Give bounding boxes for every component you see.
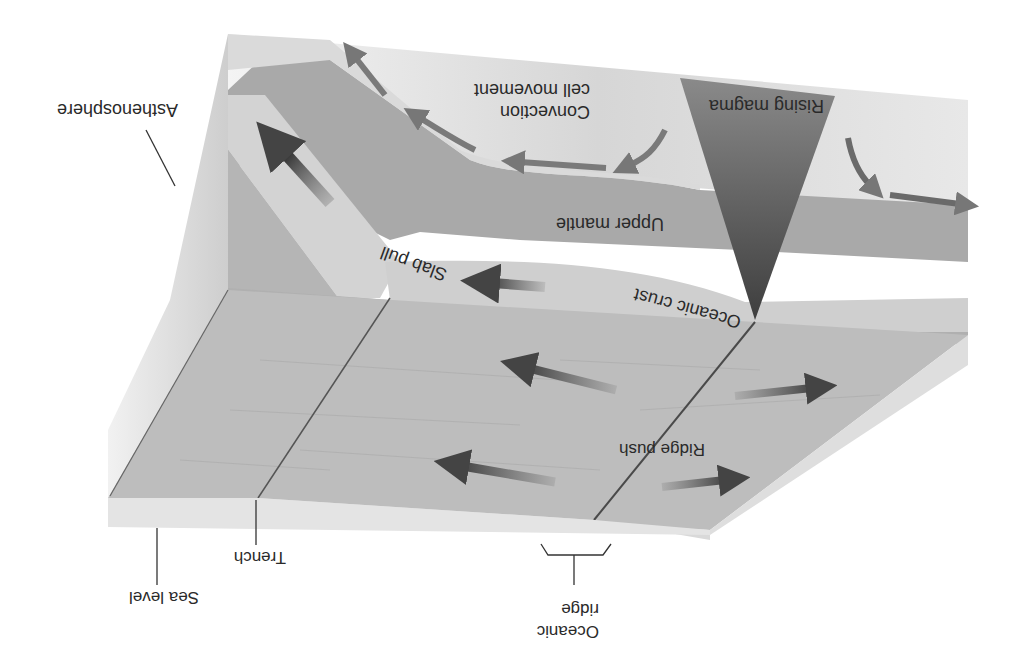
label-oceanic-ridge-line1: Oceanic [536,622,599,641]
plate-tectonics-diagram: Asthenosphere Convection cell movement R… [0,0,1025,672]
label-convection-line2: cell movement [474,80,590,100]
label-sea-level: Sea level [129,588,199,607]
asthenosphere-leader [146,130,175,186]
label-ridge-push: Ridge push [619,440,705,459]
label-convection-line1: Convection [500,102,590,122]
label-trench: Trench [234,548,286,567]
label-rising-magma: Rising magma [708,96,824,116]
label-upper-mantle: Upper mantle [556,214,664,234]
label-oceanic-ridge-line2: ridge [561,600,599,619]
label-asthenosphere: Asthenosphere [57,100,178,120]
crust-arrow [492,283,545,287]
oceanic-ridge-bracket [541,544,611,585]
